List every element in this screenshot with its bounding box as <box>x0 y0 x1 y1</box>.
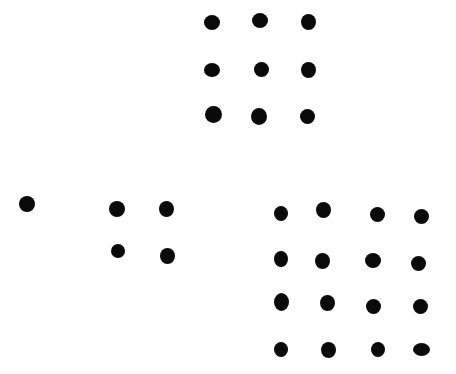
dot <box>320 295 335 311</box>
dot <box>413 343 430 356</box>
dot <box>301 14 316 30</box>
dot <box>274 293 289 311</box>
dot <box>371 342 385 357</box>
dot <box>301 62 316 78</box>
dot <box>274 251 288 267</box>
dot <box>204 15 220 30</box>
dot <box>411 256 426 271</box>
dot <box>315 253 330 269</box>
dot <box>205 106 222 123</box>
dot <box>300 109 315 124</box>
dot <box>366 299 381 314</box>
dot <box>254 62 269 77</box>
dot <box>370 207 385 222</box>
dot <box>274 206 288 221</box>
dot <box>321 342 336 358</box>
dot <box>19 196 35 212</box>
dot-pattern-diagram <box>0 0 456 374</box>
dot <box>160 248 175 264</box>
dot <box>365 253 381 268</box>
dot <box>159 201 174 217</box>
dot <box>414 209 429 224</box>
dot <box>204 63 220 77</box>
dot <box>109 201 125 217</box>
dot <box>316 202 331 218</box>
dot <box>251 108 267 125</box>
dot <box>252 13 268 28</box>
dot <box>413 299 428 314</box>
dot <box>111 244 125 258</box>
dot <box>274 342 288 357</box>
